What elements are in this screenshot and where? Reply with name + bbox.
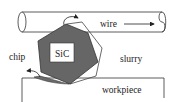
- wire-label: wire: [100, 19, 117, 29]
- sic-label: SiC: [55, 49, 69, 59]
- workpiece-label: workpiece: [102, 85, 142, 95]
- workpiece: [22, 78, 164, 102]
- curved-arrow-left-icon: [27, 71, 40, 77]
- wire-saw-diagram: wire workpiece SiC chip slurry: [0, 0, 174, 102]
- slurry-label: slurry: [120, 54, 142, 64]
- wire-left-end: [18, 12, 26, 32]
- wire: [18, 12, 166, 32]
- chip-label: chip: [9, 52, 26, 62]
